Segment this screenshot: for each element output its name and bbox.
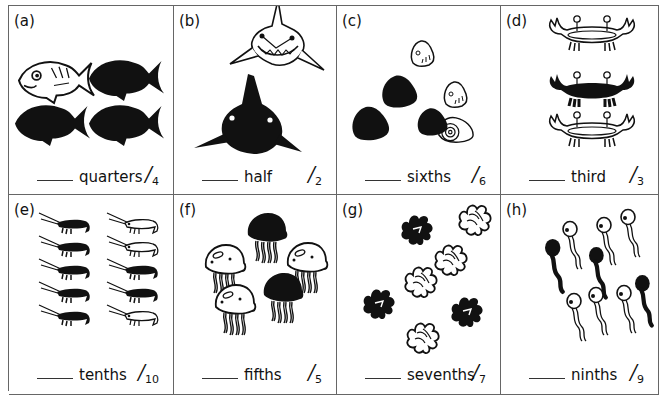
panel-d-crabs: (d) third /3 bbox=[501, 6, 659, 195]
shell-illustration bbox=[337, 6, 501, 166]
fraction-word: third bbox=[571, 168, 606, 186]
answer-blank[interactable] bbox=[37, 378, 73, 379]
panel-f-jellyfish: (f) fifths /5 bbox=[174, 195, 337, 395]
fraction-denominator: /5 bbox=[308, 360, 322, 386]
panel-c-shells: (c) sixths /6 bbox=[337, 6, 501, 195]
fraction-denominator: /7 bbox=[472, 360, 486, 386]
fraction-word: quarters bbox=[79, 168, 142, 186]
fraction-word: ninths bbox=[571, 366, 617, 384]
panel-h-tadpoles: (h) ninths /9 bbox=[501, 195, 659, 395]
fish-illustration bbox=[9, 6, 174, 166]
answer-blank[interactable] bbox=[529, 180, 565, 181]
answer-blank[interactable] bbox=[202, 180, 238, 181]
fraction-word: tenths bbox=[79, 366, 127, 384]
tadpole-illustration bbox=[501, 195, 659, 355]
fraction-denominator: /10 bbox=[138, 360, 159, 386]
shark-illustration bbox=[174, 6, 337, 166]
panel-b-shark: (b) half /2 bbox=[174, 6, 337, 195]
jellyfish-illustration bbox=[174, 195, 337, 355]
answer-blank[interactable] bbox=[37, 180, 73, 181]
fraction-word: fifths bbox=[244, 366, 282, 384]
answer-blank[interactable] bbox=[529, 378, 565, 379]
fraction-word: sevenths bbox=[407, 366, 475, 384]
fraction-denominator: /4 bbox=[145, 162, 159, 188]
fraction-word: sixths bbox=[407, 168, 451, 186]
panel-g-seaweed: (g) sevenths /7 bbox=[337, 195, 501, 395]
answer-blank[interactable] bbox=[365, 180, 401, 181]
answer-blank[interactable] bbox=[202, 378, 238, 379]
fraction-denominator: /2 bbox=[308, 162, 322, 188]
seaweed-illustration bbox=[337, 195, 501, 355]
fraction-worksheet-grid: (a) quarters /4 (b) bbox=[8, 5, 659, 391]
panel-e-shrimp: (e) tenths /10 bbox=[9, 195, 174, 395]
fraction-denominator: /9 bbox=[630, 360, 644, 386]
fraction-denominator: /6 bbox=[472, 162, 486, 188]
fraction-word: half bbox=[244, 168, 272, 186]
panel-a-fish: (a) quarters /4 bbox=[9, 6, 174, 195]
answer-blank[interactable] bbox=[365, 378, 401, 379]
shrimp-illustration bbox=[9, 195, 174, 355]
crab-illustration bbox=[501, 6, 659, 166]
fraction-denominator: /3 bbox=[630, 162, 644, 188]
